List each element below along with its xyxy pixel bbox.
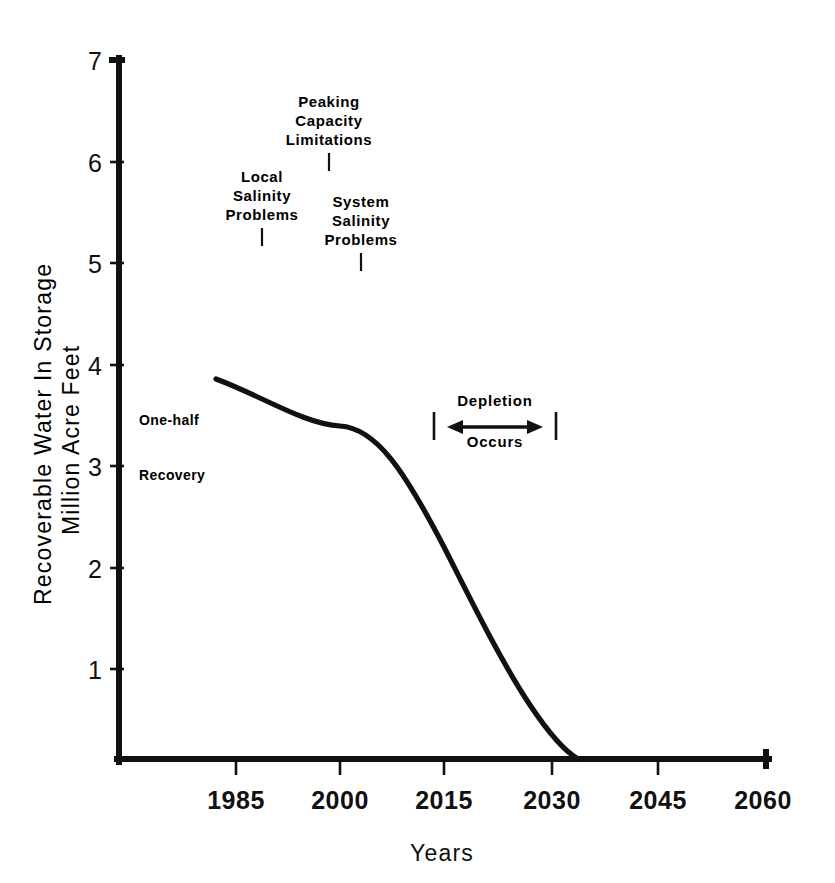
y-tick-label-5: 5 [68, 250, 102, 279]
arrowhead-right [527, 420, 543, 434]
x-tick-label-2000: 2000 [295, 786, 385, 815]
one-half-recovery-line-1: One-half [139, 411, 205, 429]
y-tick-label-6: 6 [68, 149, 102, 178]
local-salinity-line-1: Local [187, 167, 337, 186]
x-axis-ticks [236, 760, 658, 775]
y-axis-line [112, 58, 122, 762]
y-tick-label-1: 1 [68, 656, 102, 685]
x-tick-label-2060: 2060 [718, 786, 808, 815]
peaking-line-2: Capacity [254, 111, 404, 130]
y-tick-label-7: 7 [68, 47, 102, 76]
system-salinity-line-2: Salinity [286, 211, 436, 230]
x-tick-label-2045: 2045 [613, 786, 703, 815]
y-axis-title-line2: Million Acre Feet [58, 345, 85, 535]
x-tick-label-2015: 2015 [399, 786, 489, 815]
peaking-line-1: Peaking [254, 92, 404, 111]
arrowhead-left [447, 420, 463, 434]
peaking-line-3: Limitations [254, 130, 404, 149]
x-tick-label-1985: 1985 [191, 786, 281, 815]
system-salinity-line-3: Problems [286, 230, 436, 249]
y-tick-label-2: 2 [68, 555, 102, 584]
chart-figure: 7 6 5 4 3 2 1 1985 2000 2015 2030 2045 2… [0, 0, 835, 883]
x-tick-label-2030: 2030 [507, 786, 597, 815]
annotation-system-salinity-problems: System Salinity Problems [286, 192, 436, 250]
one-half-recovery-line-2: Recovery [139, 466, 205, 484]
x-axis-title: Years [342, 840, 542, 867]
plot-area [0, 0, 835, 883]
y-axis-title: Recoverable Water In Storage Million Acr… [0, 0, 70, 883]
y-axis-title-line1: Recoverable Water In Storage [30, 263, 57, 605]
annotation-occurs-label: Occurs [430, 433, 560, 450]
system-salinity-line-1: System [286, 192, 436, 211]
annotation-peaking-capacity-limitations: Peaking Capacity Limitations [254, 92, 404, 150]
annotation-one-half-recovery: One-half Recovery [139, 375, 205, 521]
annotation-depletion-label: Depletion [430, 392, 560, 409]
